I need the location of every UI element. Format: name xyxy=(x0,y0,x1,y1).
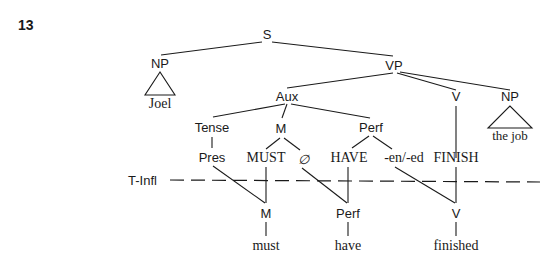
edge-vp-v xyxy=(397,73,456,90)
word-the-job: the job xyxy=(492,128,528,143)
node-pres: Pres xyxy=(199,150,226,165)
edge-perf-have xyxy=(352,136,369,148)
node-en-ed: -en/-ed xyxy=(384,150,424,165)
node-finish-upper: FINISH xyxy=(433,150,478,165)
node-perf-top: Perf xyxy=(359,120,383,135)
node-np-object: NP xyxy=(501,89,519,104)
example-number: 13 xyxy=(18,17,34,33)
node-null: ∅ xyxy=(298,152,310,167)
node-vp: VP xyxy=(385,58,402,73)
edge-s-np xyxy=(161,42,262,55)
edge-m-null xyxy=(284,138,300,150)
edge-m-must xyxy=(266,138,280,149)
t-infl-boundary-line xyxy=(170,180,540,182)
node-m-bottom: M xyxy=(261,206,272,221)
edge-perf-en xyxy=(373,136,392,149)
word-joel: Joel xyxy=(149,96,172,111)
edge-s-vp xyxy=(272,42,393,56)
tree-nodes: S NP Joel VP Aux V NP the job Tense M Pe… xyxy=(149,27,528,253)
edge-pres-m xyxy=(213,166,265,203)
node-s: S xyxy=(263,27,272,42)
node-np-subject: NP xyxy=(151,56,169,71)
edge-aux-perf xyxy=(291,104,370,118)
edge-vp-aux xyxy=(287,73,393,88)
edge-en-v xyxy=(395,167,455,203)
edge-aux-m xyxy=(282,104,287,118)
node-perf-bottom: Perf xyxy=(336,206,360,221)
node-m-top: M xyxy=(276,121,287,136)
np-subject-triangle xyxy=(145,72,175,95)
t-infl-label: T-Infl xyxy=(128,173,157,188)
np-object-triangle xyxy=(488,106,532,128)
edge-vp-np xyxy=(400,72,510,90)
word-finished: finished xyxy=(433,238,478,253)
edge-aux-tense xyxy=(213,104,285,117)
syntax-tree-diagram: 13 xyxy=(0,0,547,268)
node-v-top: V xyxy=(452,89,461,104)
node-v-bottom: V xyxy=(452,206,461,221)
node-must-upper: MUST xyxy=(247,150,286,165)
word-must: must xyxy=(252,238,279,253)
node-aux: Aux xyxy=(276,89,299,104)
edge-null-perf xyxy=(302,168,347,203)
node-tense: Tense xyxy=(195,120,230,135)
node-have-upper: HAVE xyxy=(330,150,367,165)
word-have: have xyxy=(335,238,361,253)
